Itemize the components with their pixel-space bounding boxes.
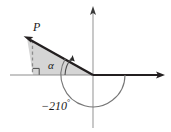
alpha-angle-label: α xyxy=(48,60,54,71)
degree-sign: ° xyxy=(67,98,70,107)
point-p-label: P xyxy=(33,21,40,33)
angle-measure-value: −210 xyxy=(41,99,67,113)
angle-diagram-figure: P α −210° xyxy=(0,0,171,132)
negative-angle-measure-label: −210° xyxy=(41,99,70,112)
angle-diagram-canvas xyxy=(0,0,171,132)
